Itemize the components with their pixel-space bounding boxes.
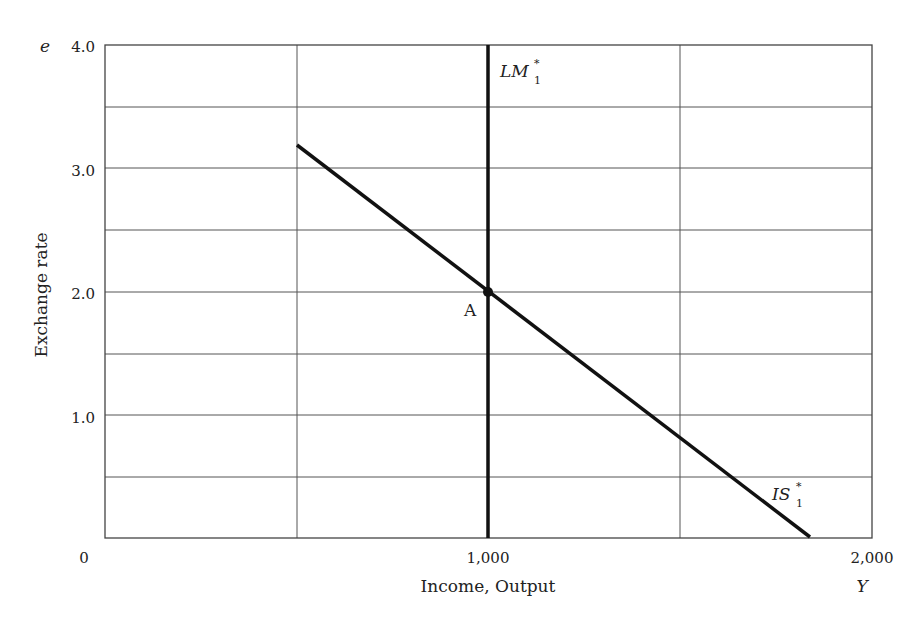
chart: e 4.0 3.0 2.0 1.0 0 Exchange rate 1,000 … bbox=[0, 0, 924, 619]
x-axis-title: Income, Output bbox=[421, 576, 556, 596]
lm-label: LM * 1 bbox=[499, 57, 541, 87]
point-a-label: A bbox=[463, 300, 477, 320]
svg-text:1: 1 bbox=[534, 74, 541, 87]
y-tick-4: 4.0 bbox=[71, 38, 95, 56]
svg-text:LM: LM bbox=[499, 61, 529, 81]
y-tick-1: 1.0 bbox=[71, 409, 95, 427]
y-tick-2: 2.0 bbox=[71, 285, 95, 303]
x-tick-1000: 1,000 bbox=[467, 549, 510, 567]
svg-text:*: * bbox=[534, 57, 540, 70]
equilibrium-point bbox=[483, 287, 493, 297]
svg-text:*: * bbox=[796, 480, 802, 493]
y-tick-3: 3.0 bbox=[71, 162, 95, 180]
x-symbol: Y bbox=[856, 576, 869, 596]
origin-label: 0 bbox=[79, 549, 89, 567]
y-symbol: e bbox=[40, 36, 50, 56]
svg-text:IS: IS bbox=[771, 484, 790, 504]
is-curve bbox=[297, 145, 810, 537]
y-axis-title: Exchange rate bbox=[31, 232, 51, 357]
svg-text:1: 1 bbox=[796, 497, 803, 510]
x-tick-2000: 2,000 bbox=[851, 549, 894, 567]
is-label: IS * 1 bbox=[771, 480, 803, 510]
